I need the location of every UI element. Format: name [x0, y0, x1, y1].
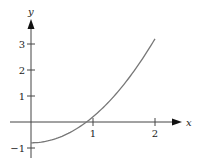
x-tick-label: 2	[152, 128, 158, 139]
x-axis-label: x	[186, 117, 192, 128]
ticks: 12−1123	[10, 39, 158, 154]
y-tick-label: −1	[10, 143, 25, 154]
y-tick-label: 1	[19, 91, 25, 102]
x-tick-label: 1	[90, 128, 96, 139]
axis-labels: xy	[27, 6, 192, 128]
y-tick-label: 3	[19, 39, 25, 50]
y-tick-label: 2	[19, 65, 25, 76]
y-axis-arrow-icon	[28, 19, 35, 29]
x-axis-arrow-icon	[172, 119, 182, 126]
y-axis-label: y	[27, 6, 34, 17]
function-graph: 12−1123 xy	[0, 0, 208, 166]
